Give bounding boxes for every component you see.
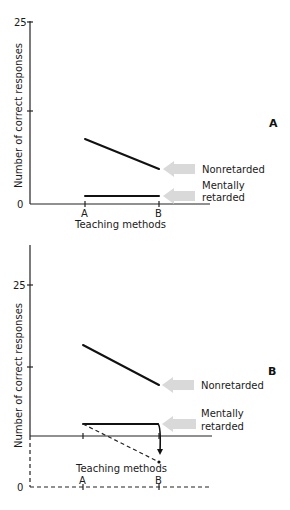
figure: 25 0 Number of correct responses A B Tea…: [0, 0, 290, 510]
arrow-mentally-retarded-icon: [163, 188, 195, 204]
label-mentally: Mentally: [201, 408, 244, 419]
y-tick-label-0: 0: [17, 482, 23, 493]
drop-arrowhead-icon: [157, 449, 163, 455]
y-axis-label: Number of correct responses: [13, 43, 24, 188]
y-tick-label-25: 25: [13, 280, 26, 291]
chart-b: 25 0 Number of correct responses A B Tea…: [13, 245, 276, 493]
label-retarded: retarded: [202, 192, 245, 203]
x-tick-label-a: A: [81, 208, 88, 219]
series-mentally-retarded-relative: [83, 424, 159, 462]
panel-label-a: A: [269, 117, 278, 130]
x-tick-label-b: B: [155, 475, 162, 486]
panel-label-b: B: [268, 365, 276, 378]
arrow-mentally-retarded-icon: [162, 416, 196, 432]
x-tick-label-a: A: [79, 475, 86, 486]
y-axis-label: Number of correct responses: [13, 303, 24, 448]
label-nonretarded: Nonretarded: [201, 380, 264, 391]
y-tick-label-0: 0: [17, 199, 23, 210]
x-tick-label-b: B: [155, 208, 162, 219]
arrow-nonretarded-icon: [162, 377, 194, 393]
label-nonretarded: Nonretarded: [202, 164, 265, 175]
series-nonretarded: [85, 139, 159, 169]
chart-a: 25 0 Number of correct responses A B Tea…: [13, 17, 278, 230]
arrow-nonretarded-icon: [163, 161, 195, 177]
x-axis-label: Teaching methods: [74, 219, 166, 230]
label-mentally: Mentally: [202, 180, 245, 191]
label-retarded: retarded: [201, 421, 244, 432]
x-axis-label: Teaching methods: [75, 463, 167, 474]
relative-endpoint: [157, 460, 160, 463]
y-tick-label-25: 25: [14, 17, 27, 28]
series-nonretarded: [83, 345, 159, 385]
